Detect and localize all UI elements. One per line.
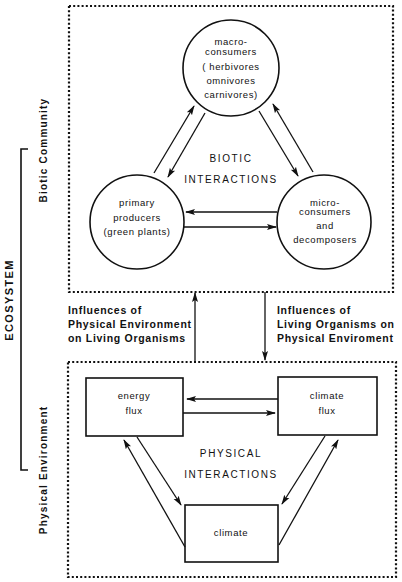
svg-text:PHYSICAL: PHYSICAL	[200, 448, 262, 459]
svg-text:climate: climate	[214, 527, 248, 538]
svg-text:decomposers: decomposers	[293, 234, 357, 245]
physical-interactions-label: PHYSICAL INTERACTIONS	[184, 448, 278, 480]
svg-text:Physical Enviroment: Physical Enviroment	[277, 332, 394, 344]
svg-text:energy: energy	[118, 390, 151, 401]
svg-text:and: and	[316, 220, 334, 231]
arrow-climateflux-to-climate	[282, 436, 325, 504]
svg-text:carnivores): carnivores)	[204, 89, 258, 100]
svg-text:on Living Organisms: on Living Organisms	[68, 332, 186, 344]
svg-text:Influences of: Influences of	[68, 304, 142, 316]
arrow-energyflux-to-climate	[137, 437, 181, 505]
svg-text:INTERACTIONS: INTERACTIONS	[184, 174, 278, 185]
svg-text:climate: climate	[310, 390, 344, 401]
arrow-micro-to-macro	[273, 104, 313, 172]
svg-text:flux: flux	[125, 405, 142, 416]
influence-living-on-physical-label: Influences of Living Organisms on Physic…	[277, 304, 395, 344]
arrow-climate-to-climateflux	[279, 440, 338, 545]
svg-text:INTERACTIONS: INTERACTIONS	[184, 469, 278, 480]
svg-text:(green plants): (green plants)	[103, 226, 170, 237]
arrow-climate-to-energyflux	[124, 440, 185, 547]
svg-text:omnivores: omnivores	[206, 75, 255, 86]
biotic-community-label: Biotic Community	[38, 98, 49, 203]
svg-text:consumers: consumers	[299, 206, 351, 217]
svg-text:producers: producers	[113, 212, 161, 223]
arrow-primary-to-macro	[154, 106, 194, 173]
svg-text:BIOTIC: BIOTIC	[210, 153, 253, 164]
svg-text:primary: primary	[119, 197, 155, 208]
ecosystem-label: ECOSYSTEM	[3, 259, 15, 341]
physical-environment-label: Physical Environment	[38, 406, 49, 534]
ecosystem-diagram: ECOSYSTEM Biotic Community Physical Envi…	[0, 0, 402, 582]
biotic-interactions-label: BIOTIC INTERACTIONS	[184, 153, 278, 185]
ecosystem-bracket	[21, 149, 28, 470]
svg-text:flux: flux	[318, 405, 335, 416]
svg-text:consumers: consumers	[205, 46, 257, 57]
macro-consumers-label: macro- consumers ( herbivores omnivores …	[202, 36, 259, 100]
svg-text:Influences of: Influences of	[277, 304, 351, 316]
climate-label: climate	[214, 527, 248, 538]
svg-text:Living Organisms on: Living Organisms on	[277, 318, 395, 330]
svg-text:Physical Environment: Physical Environment	[68, 318, 192, 330]
influence-physical-on-living-label: Influences of Physical Environment on Li…	[68, 304, 192, 344]
arrow-macro-to-primary	[168, 113, 205, 177]
arrow-macro-to-micro	[259, 111, 298, 176]
svg-text:( herbivores: ( herbivores	[202, 61, 259, 72]
